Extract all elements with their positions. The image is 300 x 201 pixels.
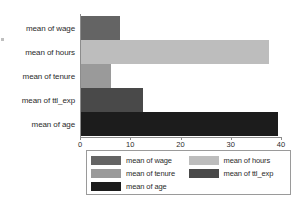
bar-row xyxy=(81,112,282,136)
legend-item: mean of ttl_exp xyxy=(189,167,287,180)
legend-label: mean of wage xyxy=(126,156,172,165)
bar-row xyxy=(81,64,282,88)
x-axis-tick-label: 10 xyxy=(126,140,134,149)
x-axis-tick-label: 0 xyxy=(78,140,82,149)
x-axis-tick-label: 40 xyxy=(277,140,285,149)
legend-label: mean of age xyxy=(126,182,167,191)
legend-swatch xyxy=(189,156,219,165)
bar-row xyxy=(81,16,282,40)
y-axis-category-labels: mean of wage mean of hours mean of tenur… xyxy=(6,16,78,136)
y-axis-label-hours: mean of hours xyxy=(6,40,78,64)
legend-label: mean of ttl_exp xyxy=(224,169,274,178)
bar-ttl-exp xyxy=(81,88,143,112)
bar-wage xyxy=(81,16,120,40)
legend-grid: mean of wagemean of hoursmean of tenurem… xyxy=(91,154,286,191)
x-axis-tick-label: 30 xyxy=(227,140,235,149)
legend-swatch xyxy=(91,182,121,191)
bar-chart: mean of wage mean of hours mean of tenur… xyxy=(0,0,300,201)
bar-row xyxy=(81,40,282,64)
legend-item: mean of hours xyxy=(189,154,287,167)
y-axis-label-wage: mean of wage xyxy=(6,16,78,40)
bar-tenure xyxy=(81,64,111,88)
bar-age xyxy=(81,112,278,136)
y-axis-label-ttl-exp: mean of ttl_exp xyxy=(6,88,78,112)
x-axis-tick-label: 20 xyxy=(176,140,184,149)
legend-swatch xyxy=(91,156,121,165)
bar-group xyxy=(81,16,282,136)
legend-item: mean of wage xyxy=(91,154,189,167)
legend-label: mean of hours xyxy=(224,156,271,165)
legend-label: mean of tenure xyxy=(126,169,175,178)
plot-area: mean of wage mean of hours mean of tenur… xyxy=(0,0,300,148)
legend-swatch xyxy=(189,169,219,178)
y-axis-label-age: mean of age xyxy=(6,112,78,136)
legend-swatch xyxy=(91,169,121,178)
bar-row xyxy=(81,88,282,112)
y-axis-label-tenure: mean of tenure xyxy=(6,64,78,88)
legend-item: mean of tenure xyxy=(91,167,189,180)
legend-item: mean of age xyxy=(91,180,189,193)
chart-legend: mean of wagemean of hoursmean of tenurem… xyxy=(86,150,291,195)
x-axis-ticks: 010203040 xyxy=(80,137,282,148)
bar-hours xyxy=(81,40,269,64)
